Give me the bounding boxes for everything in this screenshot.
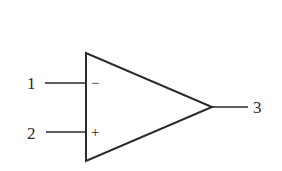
op-amp-diagram: 1 2 3 − + — [0, 0, 282, 171]
pin-1-label: 1 — [27, 74, 36, 93]
pin-2-label: 2 — [27, 124, 36, 143]
non-inverting-sign: + — [91, 124, 99, 140]
op-amp-triangle — [86, 53, 212, 161]
inverting-sign: − — [91, 75, 99, 91]
pin-3-label: 3 — [253, 98, 262, 117]
